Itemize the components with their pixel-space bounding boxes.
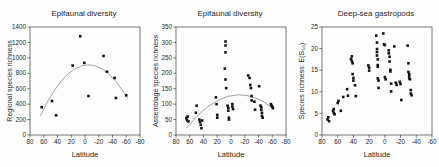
x-axis-label: Latitude bbox=[176, 150, 286, 159]
data-point bbox=[389, 70, 392, 73]
data-point bbox=[375, 34, 378, 37]
x-tick-label: -20 bbox=[396, 138, 406, 145]
data-point bbox=[352, 77, 355, 80]
data-point bbox=[333, 113, 336, 116]
data-point bbox=[377, 79, 380, 82]
x-tick-label: 60 bbox=[40, 138, 48, 145]
x-tick-label: -80 bbox=[135, 138, 145, 145]
data-point bbox=[216, 114, 219, 117]
data-point bbox=[376, 48, 379, 51]
data-point bbox=[346, 88, 349, 91]
data-point bbox=[340, 110, 343, 113]
data-point bbox=[248, 77, 251, 80]
data-point bbox=[376, 65, 379, 68]
x-tick-label: 0 bbox=[383, 138, 387, 145]
data-point bbox=[410, 94, 413, 97]
data-point bbox=[390, 90, 393, 93]
data-point bbox=[351, 55, 354, 58]
data-point bbox=[231, 103, 234, 106]
y-tick-label: 150 bbox=[161, 85, 172, 92]
x-tick-label: 80 bbox=[26, 138, 34, 145]
data-point bbox=[231, 105, 234, 108]
x-tick-label: -20 bbox=[94, 138, 104, 145]
y-tick-label: 5 bbox=[314, 110, 318, 117]
trend-curve bbox=[40, 65, 127, 116]
data-point bbox=[400, 99, 403, 102]
data-point bbox=[409, 89, 412, 92]
data-point bbox=[406, 44, 409, 47]
y-tick-label: 0 bbox=[22, 131, 26, 138]
x-tick-label: -60 bbox=[122, 138, 132, 145]
data-point bbox=[215, 96, 218, 99]
data-point bbox=[377, 87, 380, 90]
x-tick-label: 80 bbox=[172, 138, 180, 145]
y-tick-label: 10 bbox=[311, 88, 319, 95]
data-point bbox=[79, 35, 82, 38]
data-point bbox=[195, 104, 198, 107]
scatter-plot-assemblage-species-richness: 806040200-20-40-60-800501001502002503003… bbox=[146, 0, 292, 167]
x-tick-label: -80 bbox=[281, 138, 291, 145]
data-point bbox=[393, 45, 396, 48]
data-point bbox=[102, 55, 105, 58]
y-tick-label: 300 bbox=[161, 39, 172, 46]
data-point bbox=[352, 79, 355, 82]
data-point bbox=[376, 58, 379, 61]
data-point bbox=[224, 51, 227, 54]
y-tick-label: 350 bbox=[161, 23, 172, 30]
data-point bbox=[354, 95, 357, 98]
x-tick-label: -60 bbox=[268, 138, 278, 145]
data-point bbox=[260, 106, 263, 109]
y-tick-label: 50 bbox=[165, 116, 173, 123]
data-point bbox=[337, 100, 340, 103]
panel-regional-epifaunal-diversity: Epifaunal diversity Regional species ric… bbox=[0, 0, 146, 167]
data-point bbox=[407, 62, 410, 65]
data-point bbox=[388, 56, 391, 59]
data-point bbox=[51, 100, 54, 103]
x-tick-label: 40 bbox=[54, 138, 62, 145]
data-point bbox=[327, 116, 330, 119]
data-point bbox=[254, 108, 257, 111]
data-point bbox=[342, 96, 345, 99]
y-tick-label: 400 bbox=[15, 100, 26, 107]
data-point bbox=[368, 69, 371, 72]
data-point bbox=[199, 124, 202, 127]
plot-box bbox=[176, 27, 286, 135]
y-tick-label: 200 bbox=[15, 116, 26, 123]
panel-assemblage-epifaunal-diversity: Epifaunal diversity Assemblage species r… bbox=[146, 0, 292, 167]
data-point bbox=[260, 108, 263, 111]
x-tick-label: 20 bbox=[68, 138, 76, 145]
data-point bbox=[227, 107, 230, 110]
data-point bbox=[198, 118, 201, 121]
data-point bbox=[225, 87, 228, 90]
y-tick-label: 15 bbox=[311, 66, 319, 73]
data-point bbox=[250, 87, 253, 90]
y-tick-label: 250 bbox=[161, 54, 172, 61]
data-point bbox=[354, 84, 357, 87]
data-point bbox=[186, 115, 189, 118]
data-point bbox=[40, 106, 43, 109]
data-point bbox=[83, 62, 86, 65]
data-point bbox=[232, 108, 235, 111]
data-point bbox=[376, 54, 379, 57]
data-point bbox=[250, 99, 253, 102]
data-point bbox=[261, 111, 264, 114]
x-tick-label: -60 bbox=[427, 138, 437, 145]
data-point bbox=[399, 83, 402, 86]
x-tick-label: 20 bbox=[214, 138, 222, 145]
x-tick-label: -20 bbox=[240, 138, 250, 145]
data-point bbox=[125, 94, 128, 97]
data-point bbox=[106, 70, 109, 73]
data-point bbox=[195, 111, 198, 114]
data-point bbox=[224, 67, 227, 70]
data-point bbox=[224, 78, 227, 81]
y-tick-label: 1200 bbox=[12, 39, 27, 46]
x-tick-label: 0 bbox=[229, 138, 233, 145]
data-point bbox=[247, 74, 250, 77]
data-point bbox=[216, 116, 219, 119]
data-point bbox=[113, 77, 116, 80]
data-point bbox=[351, 62, 354, 65]
x-tick-label: -40 bbox=[412, 138, 422, 145]
data-point bbox=[376, 41, 379, 44]
data-point bbox=[215, 103, 218, 106]
y-tick-label: 0 bbox=[314, 131, 318, 138]
